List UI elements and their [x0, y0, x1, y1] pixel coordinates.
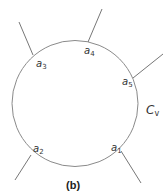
cycle-label: Cv	[146, 104, 159, 118]
cycle-diagram: a1 a2 a3 a4 a5 Cv (b)	[0, 0, 167, 194]
edge-a2	[15, 155, 31, 180]
node-label-a1: a1	[111, 143, 122, 155]
edge-a1	[121, 151, 141, 183]
node-label-a3: a3	[36, 59, 47, 71]
edge-a5	[133, 54, 163, 78]
node-label-sub: 5	[128, 81, 132, 89]
edge-a4	[88, 9, 102, 42]
figure-caption: (b)	[66, 180, 80, 191]
node-label-a2: a2	[33, 144, 44, 156]
node-label-sub: 3	[42, 63, 46, 71]
node-label-a4: a4	[84, 46, 95, 58]
node-label-sub: 2	[39, 148, 43, 156]
diagram-canvas	[0, 0, 167, 194]
edge-a3	[19, 22, 33, 55]
cycle-label-sub: v	[154, 109, 159, 118]
node-label-a5: a5	[122, 77, 133, 89]
node-label-sub: 4	[90, 50, 94, 58]
node-label-sub: 1	[117, 147, 121, 155]
